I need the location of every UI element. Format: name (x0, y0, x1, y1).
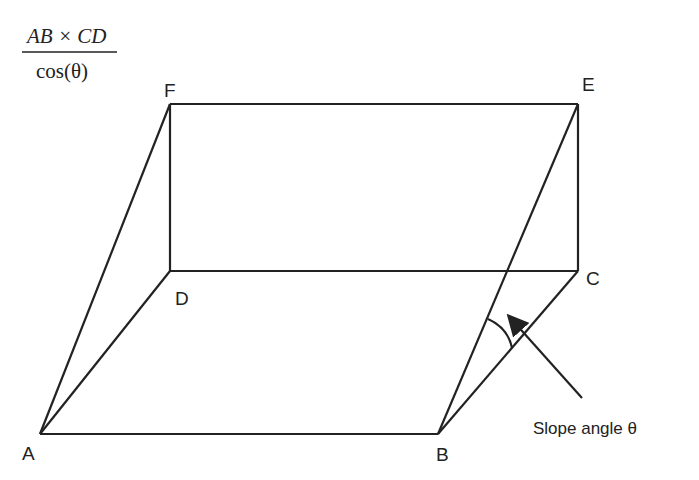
formula: AB × CD cos(θ) (22, 24, 117, 83)
formula-numerator: AB × CD (25, 24, 107, 48)
edge-BE (438, 104, 578, 434)
slope-angle-label: Slope angle θ (533, 419, 637, 438)
edge-AD (40, 271, 170, 434)
annotation-arrow (514, 322, 582, 398)
vertex-label-F: F (164, 80, 176, 101)
slope-diagram: AB × CD cos(θ) F E C D A B Slope angle θ (0, 0, 699, 480)
geometry-lines (40, 104, 582, 434)
vertex-label-C: C (586, 268, 600, 289)
vertex-label-D: D (175, 288, 189, 309)
vertex-label-A: A (22, 443, 35, 464)
angle-arc (488, 319, 512, 348)
edge-BC (438, 271, 578, 434)
formula-denominator: cos(θ) (36, 59, 88, 83)
edge-AF (40, 104, 170, 434)
vertex-label-B: B (436, 444, 449, 465)
vertex-label-E: E (582, 74, 595, 95)
